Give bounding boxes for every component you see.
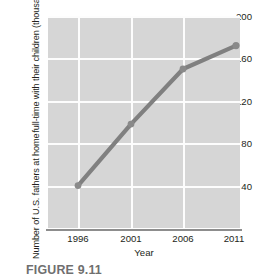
data-point-2011 bbox=[232, 42, 239, 49]
plot-area bbox=[48, 16, 240, 228]
y-axis-title: Number of U.S. fathers at home full-time… bbox=[21, 10, 51, 230]
figure-caption: FIGURE 9.11 bbox=[26, 263, 102, 277]
data-point-1996 bbox=[75, 182, 82, 189]
data-point-2006 bbox=[180, 66, 187, 73]
x-tick-label-2006: 2006 bbox=[161, 233, 205, 244]
data-point-2001 bbox=[128, 121, 135, 128]
data-series-layer bbox=[48, 16, 240, 228]
x-tick-label-2001: 2001 bbox=[109, 233, 153, 244]
x-tick-label-1996: 1996 bbox=[56, 233, 100, 244]
y-axis-title-line-1: Number of U.S. fathers at home bbox=[31, 134, 41, 259]
x-tick-label-2011: 2011 bbox=[212, 233, 256, 244]
x-axis-title: Year bbox=[48, 247, 240, 258]
y-axis-title-line-2: full-time with their children (thousands… bbox=[31, 0, 41, 133]
series-line-stay-at-home-fathers bbox=[78, 46, 236, 186]
x-axis-line bbox=[46, 229, 242, 231]
figure-container: Number of U.S. fathers at home full-time… bbox=[0, 0, 256, 277]
